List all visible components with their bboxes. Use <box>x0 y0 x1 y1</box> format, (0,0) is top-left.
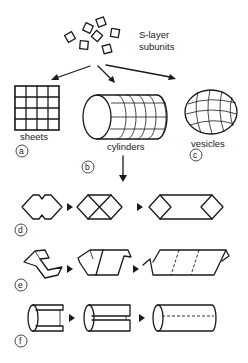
panel-e-sequence <box>24 250 229 278</box>
branch-arrows <box>51 65 176 83</box>
s-layer-assembly-diagram: S-layer subunits sheets a cylinders b <box>0 0 248 363</box>
cylinder-icon <box>83 95 167 139</box>
panel-d-sequence <box>22 195 223 219</box>
label-a: a <box>19 146 24 156</box>
panel-f-sequence <box>28 305 216 331</box>
sheets-label: sheets <box>20 131 48 142</box>
label-b: b <box>85 162 90 172</box>
label-e: e <box>18 280 23 290</box>
subunits-icon <box>65 17 120 54</box>
vesicle-icon <box>185 90 237 134</box>
label-d: d <box>18 225 23 235</box>
sheets-grid-icon <box>15 86 59 130</box>
label-c: c <box>193 150 198 160</box>
vesicles-label: vesicles <box>191 138 225 149</box>
label-f: f <box>19 336 22 346</box>
subunits-label-line2: subunits <box>139 41 175 52</box>
subunits-label-line1: S-layer <box>139 29 169 40</box>
cylinders-label: cylinders <box>107 141 145 152</box>
